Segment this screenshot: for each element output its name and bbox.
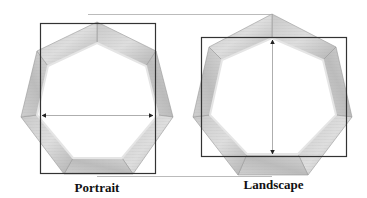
- landscape-label: Landscape: [236, 177, 311, 193]
- heptagon-orientation-diagram: [0, 0, 367, 198]
- portrait-heptagon-frame: [21, 22, 173, 174]
- portrait-label: Portrait: [67, 180, 127, 196]
